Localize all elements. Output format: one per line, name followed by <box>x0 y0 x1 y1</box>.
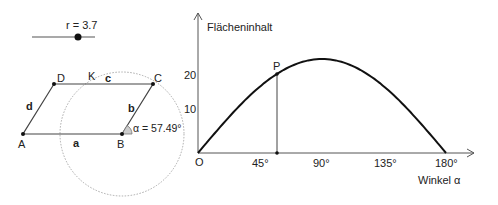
x-tick-45: 45° <box>252 157 269 169</box>
x-tick-90: 90° <box>313 157 330 169</box>
y-tick-10: 10 <box>184 103 196 115</box>
point-a[interactable] <box>21 132 25 136</box>
p-foot-point <box>275 151 279 155</box>
side-d-label: d <box>26 100 33 112</box>
x-axis-label: Winkel α <box>418 174 461 186</box>
slider-label: r = 3.7 <box>66 19 98 31</box>
angle-label: α = 57.49° <box>133 122 182 134</box>
side-a-label: a <box>73 137 80 149</box>
label-b: B <box>117 138 124 150</box>
area-curve <box>198 59 446 153</box>
x-tick-180: 180° <box>435 157 458 169</box>
slider-handle[interactable] <box>75 34 82 41</box>
label-d: D <box>57 72 65 84</box>
geometry-canvas: r = 3.7 A B C D K a b c d α = 57.49° Flä… <box>0 0 498 205</box>
y-axis-label: Flächeninhalt <box>207 21 272 33</box>
label-a: A <box>18 138 26 150</box>
label-c: C <box>154 72 162 84</box>
point-d[interactable] <box>52 82 56 86</box>
side-c-label: c <box>105 72 111 84</box>
point-p[interactable] <box>275 72 279 76</box>
point-p-label: P <box>273 60 280 72</box>
y-tick-20: 20 <box>184 69 196 81</box>
side-b-label: b <box>128 102 135 114</box>
point-b[interactable] <box>120 132 124 136</box>
x-tick-135: 135° <box>374 157 397 169</box>
origin-label: O <box>195 156 204 168</box>
label-k: K <box>88 70 96 82</box>
